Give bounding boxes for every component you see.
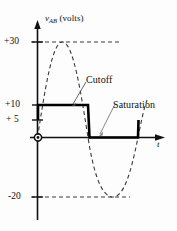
waveform-figure: vAB (volts) +30 +10 + 5 -20 Cutoff Satur… [0, 0, 177, 231]
waveform-plot [0, 0, 177, 231]
x-axis-label: t [157, 140, 160, 149]
ideal-sine-curve [38, 42, 148, 197]
y-axis-label-subscript: AB [49, 17, 57, 24]
origin-marker-dot [37, 136, 40, 139]
y-axis-arrowhead [34, 20, 40, 29]
y-axis-label-units: (volts) [59, 13, 83, 23]
tick-label-minus20: -20 [8, 192, 21, 202]
cutoff-annotation-label: Cutoff [86, 75, 113, 85]
tick-label-plus5: + 5 [6, 115, 19, 125]
tick-label-plus30: +30 [4, 37, 19, 47]
saturation-annotation-label: Saturation [113, 100, 155, 110]
tick-label-plus10: +10 [5, 100, 20, 110]
y-axis-label: vAB (volts) [45, 14, 84, 24]
